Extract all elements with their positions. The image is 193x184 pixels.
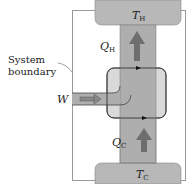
work-label: W xyxy=(57,93,70,106)
boundary-label-line1: System xyxy=(8,54,46,65)
boundary-leader-line xyxy=(58,63,72,72)
boundary-label-line2: boundary xyxy=(8,66,56,77)
heat-pump-diagram: TH TC QH QC W System boundary xyxy=(0,0,193,184)
